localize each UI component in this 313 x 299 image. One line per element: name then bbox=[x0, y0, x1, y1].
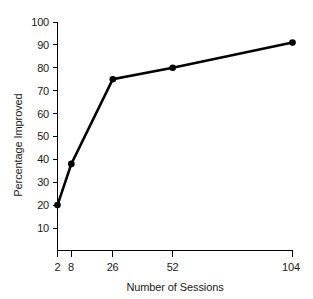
y-tick-label: 10 bbox=[37, 222, 49, 234]
y-tick-label: 40 bbox=[37, 153, 49, 165]
x-tick-label: 52 bbox=[167, 261, 179, 273]
data-point-marker bbox=[68, 161, 75, 168]
y-tick-label: 30 bbox=[37, 176, 49, 188]
y-tick-label: 80 bbox=[37, 62, 49, 74]
y-tick-label: 50 bbox=[37, 130, 49, 142]
chart-container: 100 90 80 70 60 50 40 30 20 10 2 8 26 52… bbox=[0, 0, 313, 299]
x-tick-label: 104 bbox=[282, 261, 300, 273]
x-tick-label: 8 bbox=[68, 261, 74, 273]
y-tick-label: 60 bbox=[37, 108, 49, 120]
data-point-marker bbox=[54, 202, 61, 209]
line-chart-figure: 100 90 80 70 60 50 40 30 20 10 2 8 26 52… bbox=[0, 0, 313, 299]
x-tick-label: 26 bbox=[107, 261, 119, 273]
data-point-marker bbox=[289, 39, 296, 46]
x-tick-label: 2 bbox=[55, 261, 61, 273]
data-point-marker bbox=[169, 64, 176, 71]
y-tick-label: 20 bbox=[37, 199, 49, 211]
y-axis-title: Percentage Improved bbox=[12, 93, 24, 196]
data-point-marker bbox=[109, 76, 116, 83]
y-tick-label: 70 bbox=[37, 85, 49, 97]
y-tick-label: 90 bbox=[37, 39, 49, 51]
x-axis-title: Number of Sessions bbox=[126, 281, 224, 293]
y-tick-label: 100 bbox=[31, 16, 49, 28]
